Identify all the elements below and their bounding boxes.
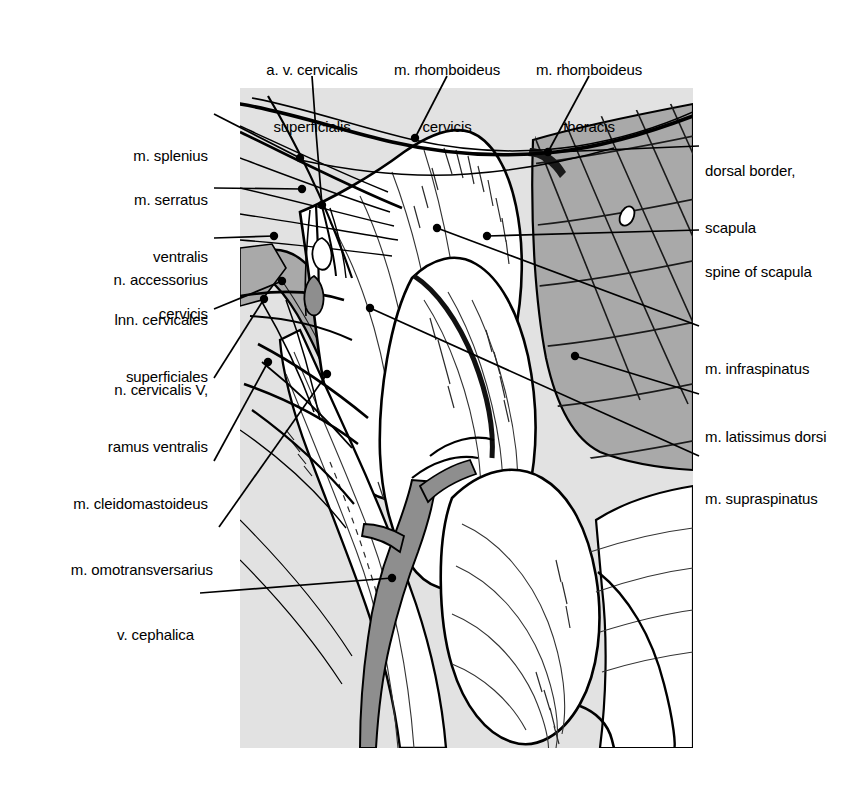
dot-m-cleidomastoideus xyxy=(264,358,272,366)
label-m-supraspinatus: m. supraspinatus xyxy=(705,451,855,546)
dot-m-omotransversarius xyxy=(323,370,331,378)
dot-m-serratus-ventralis-cervicis xyxy=(298,185,306,193)
label-line: spine of scapula xyxy=(705,262,855,281)
thoracic-wall-sheet xyxy=(596,486,693,748)
label-line: m. cleidomastoideus xyxy=(8,494,208,513)
label-line: dorsal border, xyxy=(705,161,855,180)
label-line: m. supraspinatus xyxy=(705,489,855,508)
dot-n-accessorius xyxy=(270,232,278,240)
label-line: lnn. cervicales xyxy=(8,310,208,329)
anatomical-figure: a. v. cervicalis superficialis m. rhombo… xyxy=(0,0,859,794)
label-v-cephalica: v. cephalica xyxy=(8,587,194,682)
dot-spine-of-scapula xyxy=(483,232,491,240)
label-line: ramus ventralis xyxy=(8,437,208,456)
label-line: m. rhomboideus xyxy=(489,60,689,79)
label-line: thoracis xyxy=(489,117,689,136)
dot-a-v-cervicalis-superficialis xyxy=(318,201,326,209)
dot-v-cephalica xyxy=(388,574,396,582)
leader-m-serratus-ventralis-cervicis xyxy=(214,188,302,189)
label-line: n. cervicalis V, xyxy=(8,380,208,399)
label-line: v. cephalica xyxy=(8,625,194,644)
dot-lnn-cervicales-superficiales xyxy=(278,277,286,285)
label-m-rhomboideus-thoracis: m. rhomboideus thoracis xyxy=(489,22,689,174)
label-line: m. latissimus dorsi xyxy=(705,427,859,446)
dot-m-supraspinatus xyxy=(366,304,374,312)
dot-n-cervicalis-v xyxy=(260,295,268,303)
label-spine-of-scapula: spine of scapula xyxy=(705,224,855,319)
dot-m-latissimus-dorsi xyxy=(571,352,579,360)
label-line: m. serratus xyxy=(8,190,208,209)
label-line: m. omotransversarius xyxy=(8,560,213,579)
dot-m-infraspinatus xyxy=(433,224,441,232)
label-line: m. infraspinatus xyxy=(705,359,855,378)
